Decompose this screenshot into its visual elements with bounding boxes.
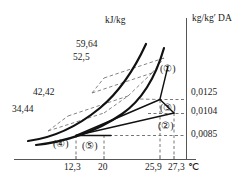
humidity-label-0-0104: 0,0104 [191, 107, 217, 117]
enthalpy-axis-label: kJ/kg [105, 16, 126, 26]
humidity-label-0-0125: 0,0125 [191, 88, 217, 98]
enthalpy-label-59-64: 59,64 [76, 40, 97, 50]
x-tick-label-12-3: 12,3 [64, 163, 81, 173]
psychrometric-chart: kJ/kg kg/kg′ DA 59,64 52,5 42,42 34,44 0… [0, 0, 252, 186]
enthalpy-label-42-42: 42,42 [33, 88, 54, 98]
enthalpy-label-52-5: 52,5 [73, 53, 90, 63]
state-point-3-label: (③) [160, 103, 176, 113]
state-point-2-label: (②) [158, 121, 174, 131]
enthalpy-line-42-42 [68, 96, 128, 116]
enthalpy-tie-2 [104, 96, 128, 113]
x-tick-label-25-9: 25,9 [145, 163, 162, 173]
enthalpy-tie-6 [140, 99, 160, 100]
x-tick-label-20: 20 [98, 163, 108, 173]
x-tick-label-27-3: 27,3 [168, 163, 185, 173]
humidity-axis-label: kg/kg′ DA [192, 14, 232, 24]
x-axis-unit-label: ℃ [188, 163, 199, 173]
enthalpy-label-34-44: 34,44 [12, 105, 33, 115]
enthalpy-tie-1 [48, 116, 68, 131]
state-point-1-label: (①) [160, 64, 176, 74]
state-point-4-label: (④) [53, 139, 69, 149]
humidity-label-0-0085: 0,0085 [191, 130, 217, 140]
state-point-5-label: (⑤) [82, 141, 98, 151]
